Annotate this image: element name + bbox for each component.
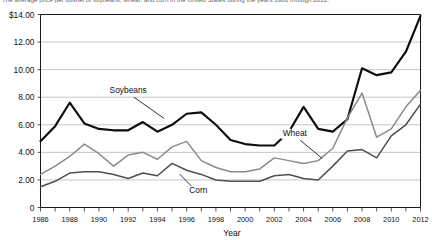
x-tick-label-2006: 2006	[325, 215, 341, 224]
plot-frame	[41, 15, 421, 208]
x-axis-ticks	[41, 208, 421, 212]
series-label-wheat: Wheat	[283, 128, 308, 138]
y-axis-labels: 02.004.006.008.0010.0012.00$14.00	[9, 10, 35, 213]
x-tick-label-2008: 2008	[354, 215, 370, 224]
y-tick-label-6: 6.00	[18, 120, 35, 130]
x-axis-labels: 1986198819901992199419961998200020022004…	[32, 215, 428, 224]
x-tick-label-1992: 1992	[120, 215, 136, 224]
x-tick-label-1990: 1990	[91, 215, 107, 224]
x-tick-label-2002: 2002	[266, 215, 282, 224]
y-tick-label-0: 0	[30, 203, 35, 213]
y-tick-label-10: 10.00	[14, 65, 35, 75]
leader-line-wheat	[300, 140, 322, 158]
y-tick-label-8: 8.00	[18, 92, 35, 102]
series-line-soybeans	[41, 16, 421, 146]
leader-line-soybeans	[134, 97, 164, 118]
y-tick-label-12: 12.00	[14, 37, 35, 47]
series-line-corn	[41, 104, 421, 187]
figure: The average price per bushel of soybeans…	[0, 0, 432, 240]
x-tick-label-1994: 1994	[149, 215, 165, 224]
x-tick-label-1988: 1988	[62, 215, 78, 224]
x-tick-label-1986: 1986	[32, 215, 48, 224]
data-series	[41, 16, 421, 187]
x-tick-label-2010: 2010	[383, 215, 399, 224]
y-tick-label-14: $14.00	[9, 10, 35, 20]
series-line-wheat	[41, 90, 421, 174]
x-tick-label-2000: 2000	[237, 215, 253, 224]
x-tick-label-2012: 2012	[412, 215, 428, 224]
series-label-corn: Corn	[189, 185, 207, 195]
x-tick-label-2004: 2004	[295, 215, 311, 224]
line-chart: 02.004.006.008.0010.0012.00$14.00 198619…	[0, 0, 432, 240]
y-tick-label-2: 2.00	[18, 175, 35, 185]
y-tick-label-4: 4.00	[18, 147, 35, 157]
x-axis-title: Year	[223, 228, 241, 238]
x-tick-label-1996: 1996	[178, 215, 194, 224]
series-label-soybeans: Soybeans	[110, 85, 147, 95]
x-tick-label-1998: 1998	[208, 215, 224, 224]
